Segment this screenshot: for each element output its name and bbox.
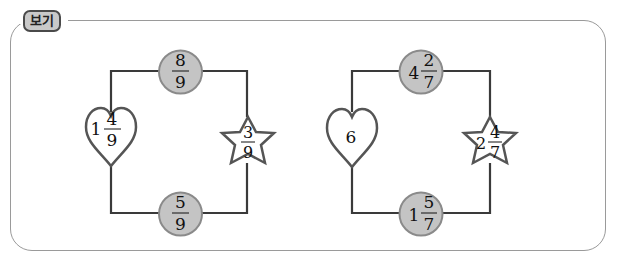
- connector-line: [202, 71, 247, 117]
- heart-shape: 6: [327, 109, 377, 167]
- connector-line: [111, 71, 159, 112]
- diagram-canvas: 8 9 1 4 9 3 9 5 9 4 2 7 6: [0, 0, 617, 260]
- numerator: 5: [175, 192, 186, 212]
- star-shape: 3 9: [222, 117, 274, 163]
- bottom-circle: 5 9: [159, 192, 202, 236]
- top-circle: 4 2 7: [400, 50, 443, 94]
- denominator: 7: [424, 72, 435, 92]
- star-shape: 2 4 7: [464, 117, 516, 163]
- heart-shape: 1 4 9: [86, 108, 136, 166]
- whole-number: 6: [346, 127, 357, 147]
- numerator: 3: [243, 123, 253, 142]
- numerator: 5: [424, 192, 435, 212]
- top-circle: 8 9: [159, 50, 202, 94]
- connector-line: [352, 71, 399, 112]
- connector-line: [352, 165, 399, 213]
- whole-number: 2: [476, 134, 486, 153]
- numerator: 4: [107, 109, 118, 129]
- denominator: 7: [424, 214, 435, 234]
- connector-line: [202, 163, 247, 213]
- numerator: 4: [490, 123, 500, 142]
- numerator: 8: [175, 50, 186, 70]
- connector-line: [442, 71, 490, 117]
- denominator: 9: [107, 130, 118, 150]
- whole-number: 4: [409, 63, 420, 83]
- bottom-circle: 1 5 7: [400, 192, 443, 236]
- denominator: 9: [175, 214, 186, 234]
- denominator: 9: [175, 72, 186, 92]
- denominator: 9: [243, 143, 253, 162]
- connector-line: [442, 163, 490, 213]
- denominator: 7: [490, 143, 500, 162]
- whole-number: 1: [91, 119, 102, 139]
- whole-number: 1: [409, 205, 420, 225]
- numerator: 2: [424, 50, 435, 70]
- connector-line: [111, 163, 159, 213]
